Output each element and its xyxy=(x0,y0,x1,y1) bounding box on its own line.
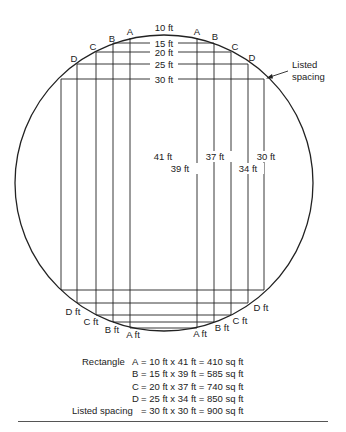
caption-row-listed-label: Listed spacing xyxy=(72,405,133,417)
caption-row-c-eq: = 20 ft x 37 ft = 740 sq ft xyxy=(141,381,243,393)
corner-a-right: A xyxy=(194,26,201,37)
length-label-30: 30 ft xyxy=(257,151,276,162)
bottom-label-d-right: D ft xyxy=(254,302,269,313)
caption-row-listed-eq: = 30 ft x 30 ft = 900 sq ft xyxy=(141,405,243,417)
length-label-37: 37 ft xyxy=(206,151,225,162)
bottom-label-c-left: C ft xyxy=(84,316,99,327)
caption-row-a-eq: = 10 ft x 41 ft = 410 sq ft xyxy=(141,356,243,368)
width-label-25: 25 ft xyxy=(155,59,174,70)
callout-arrow-icon xyxy=(266,71,288,79)
bottom-label-a-left: A ft xyxy=(126,329,140,340)
length-label-39: 39 ft xyxy=(171,163,190,174)
divider-rule xyxy=(18,421,328,422)
width-label-30: 30 ft xyxy=(155,74,174,85)
length-label-41: 41 ft xyxy=(154,151,173,162)
corner-c-left: C xyxy=(90,41,97,52)
bottom-label-b-right: B ft xyxy=(215,322,230,333)
corner-b-left: B xyxy=(109,33,115,44)
corner-d-left: D xyxy=(71,53,78,64)
caption-row-d-label: D xyxy=(132,393,139,405)
width-label-20: 20 ft xyxy=(155,47,174,58)
bottom-label-b-left: B ft xyxy=(105,324,120,335)
bottom-label-c-right: C ft xyxy=(233,315,248,326)
callout-line2: spacing xyxy=(292,71,325,82)
corner-b-right: B xyxy=(212,31,218,42)
caption-row-b-label: B xyxy=(132,368,138,380)
length-label-34: 34 ft xyxy=(239,163,258,174)
caption-row-a-label: A xyxy=(132,356,138,368)
caption-row-b-eq: = 15 ft x 39 ft = 585 sq ft xyxy=(141,368,243,380)
width-label-10: 10 ft xyxy=(155,22,174,33)
bottom-label-d-left: D ft xyxy=(66,306,81,317)
corner-a-left: A xyxy=(127,26,134,37)
caption-prefix: Rectangle xyxy=(82,356,125,368)
corner-c-right: C xyxy=(232,41,239,52)
corner-d-right: D xyxy=(249,52,256,63)
callout-line1: Listed xyxy=(292,59,317,70)
caption-row-c-label: C xyxy=(132,381,139,393)
caption-row-d-eq: = 25 ft x 34 ft = 850 sq ft xyxy=(141,393,243,405)
bottom-label-a-right: A ft xyxy=(193,328,207,339)
area-caption: Rectangle A = 10 ft x 41 ft = 410 sq ft … xyxy=(0,356,346,417)
